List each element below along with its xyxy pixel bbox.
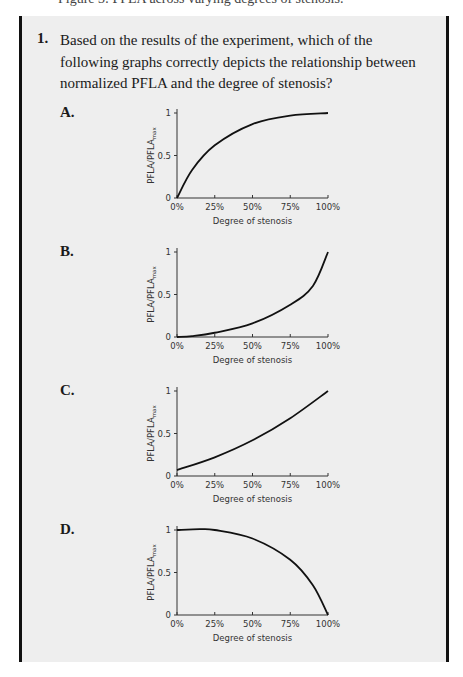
x-tick-label: 25% (205, 202, 224, 212)
y-axis-label: PFLA/PFLAmax (146, 405, 157, 462)
x-axis-label: Degree of stenosis (213, 494, 293, 504)
x-tick-label: 75% (281, 202, 300, 212)
x-tick-label: 75% (281, 619, 300, 629)
x-tick-label: 0% (170, 619, 184, 629)
line-chart: 00.510%25%50%75%100%Degree of stenosisPF… (130, 382, 350, 512)
line-chart: 00.510%25%50%75%100%Degree of stenosisPF… (130, 104, 350, 234)
x-tick-label: 0% (170, 480, 184, 490)
data-curve (177, 529, 328, 615)
y-tick-label: 1 (166, 108, 171, 118)
x-tick-label: 75% (281, 341, 300, 351)
option-c-chart[interactable]: 00.510%25%50%75%100%Degree of stenosisPF… (130, 382, 350, 512)
x-tick-label: 100% (316, 341, 340, 351)
y-tick-label: 0.5 (157, 568, 171, 578)
x-axis-label: Degree of stenosis (213, 216, 293, 226)
x-axis-label: Degree of stenosis (213, 633, 293, 643)
data-curve (177, 252, 328, 337)
y-tick-label: 0.5 (157, 151, 171, 161)
x-tick-label: 50% (243, 202, 262, 212)
x-tick-label: 50% (243, 619, 262, 629)
x-tick-label: 0% (170, 202, 184, 212)
y-tick-label: 0.5 (157, 290, 171, 300)
x-tick-label: 100% (316, 202, 340, 212)
option-b-label[interactable]: B. (60, 243, 74, 260)
x-tick-label: 25% (205, 341, 224, 351)
x-tick-label: 100% (316, 480, 340, 490)
x-tick-label: 25% (205, 480, 224, 490)
line-chart: 00.510%25%50%75%100%Degree of stenosisPF… (130, 243, 350, 373)
option-a-label[interactable]: A. (60, 104, 75, 121)
x-tick-label: 75% (281, 480, 300, 490)
cut-off-caption: Figure 3: PFLA across varying degrees of… (58, 0, 343, 7)
y-tick-label: 1 (166, 525, 171, 535)
line-chart: 00.510%25%50%75%100%Degree of stenosisPF… (130, 521, 350, 651)
y-tick-label: 1 (166, 386, 171, 396)
x-tick-label: 100% (316, 619, 340, 629)
data-curve (177, 113, 328, 198)
x-axis-label: Degree of stenosis (213, 355, 293, 365)
option-d-label[interactable]: D. (60, 521, 75, 538)
data-curve (177, 391, 328, 470)
option-a-chart[interactable]: 00.510%25%50%75%100%Degree of stenosisPF… (130, 104, 350, 234)
question-text: Based on the results of the experiment, … (60, 30, 430, 95)
y-axis-label: PFLA/PFLAmax (146, 127, 157, 184)
option-c-label[interactable]: C. (60, 382, 75, 399)
x-tick-label: 25% (205, 619, 224, 629)
x-tick-label: 50% (243, 480, 262, 490)
y-tick-label: 0.5 (157, 429, 171, 439)
question-number: 1. (37, 30, 48, 47)
y-tick-label: 1 (166, 247, 171, 257)
x-tick-label: 0% (170, 341, 184, 351)
y-axis-label: PFLA/PFLAmax (146, 266, 157, 323)
option-b-chart[interactable]: 00.510%25%50%75%100%Degree of stenosisPF… (130, 243, 350, 373)
y-axis-label: PFLA/PFLAmax (146, 544, 157, 601)
option-d-chart[interactable]: 00.510%25%50%75%100%Degree of stenosisPF… (130, 521, 350, 651)
x-tick-label: 50% (243, 341, 262, 351)
